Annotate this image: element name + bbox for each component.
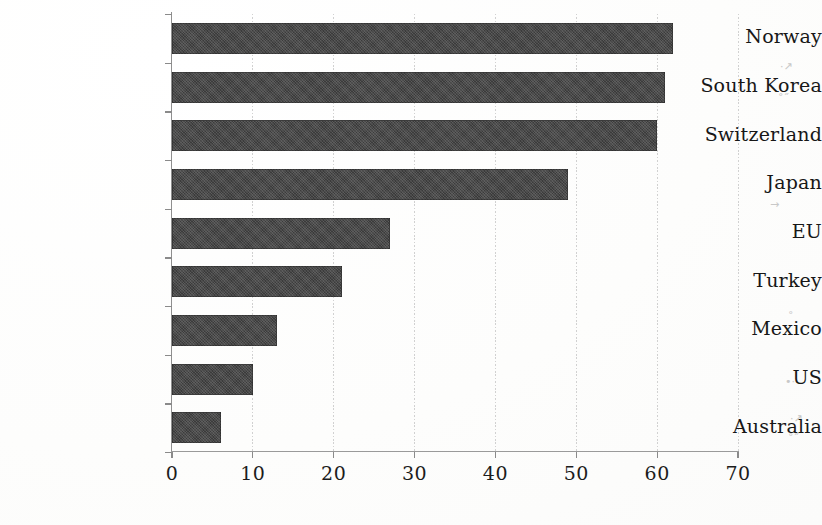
bar-mexico (172, 315, 277, 346)
category-label-turkey: Turkey (662, 269, 822, 291)
bar-australia (172, 412, 221, 443)
scan-speck-4: •· (785, 375, 795, 388)
category-label-us: US (662, 366, 822, 388)
bar-japan (172, 169, 568, 200)
x-tick-0 (171, 452, 172, 458)
bar-south-korea (172, 72, 665, 103)
category-label-japan: Japan (662, 171, 822, 193)
x-axis-label-50: 50 (546, 462, 606, 484)
y-tick-7 (165, 355, 172, 356)
bar-norway (172, 23, 673, 54)
y-tick-8 (165, 403, 172, 404)
category-label-mexico: Mexico (662, 317, 822, 339)
category-label-norway: Norway (662, 25, 822, 47)
x-tick-50 (576, 452, 577, 458)
scan-speck-0: ·↗ (780, 60, 793, 73)
y-tick-3 (165, 160, 172, 161)
category-label-south-korea: South Korea (662, 74, 822, 96)
y-tick-2 (165, 111, 172, 112)
y-tick-1 (165, 63, 172, 64)
bar-turkey (172, 266, 342, 297)
x-tick-60 (657, 452, 658, 458)
x-axis-label-0: 0 (142, 462, 202, 484)
y-tick-5 (165, 257, 172, 258)
x-axis-label-60: 60 (627, 462, 687, 484)
scan-speck-1: ˚˝ (778, 92, 789, 105)
x-axis-label-40: 40 (465, 462, 525, 484)
scan-speck-5: ·↗ (790, 412, 803, 425)
scan-speck-3: ˚ (788, 310, 794, 323)
x-tick-30 (414, 452, 415, 458)
x-axis-line (171, 451, 739, 452)
y-tick-0 (165, 14, 172, 15)
x-axis-label-20: 20 (304, 462, 364, 484)
x-axis-label-30: 30 (385, 462, 445, 484)
scan-speck-6: ˚˝ (788, 432, 799, 445)
x-axis-label-70: 70 (708, 462, 768, 484)
scan-speck-2: → (770, 198, 779, 211)
y-tick-4 (165, 209, 172, 210)
y-tick-6 (165, 306, 172, 307)
bar-switzerland (172, 120, 657, 151)
x-tick-40 (495, 452, 496, 458)
x-tick-10 (252, 452, 253, 458)
bar-eu (172, 218, 390, 249)
horizontal-bar-chart: 010203040506070 NorwaySouth KoreaSwitzer… (0, 0, 822, 525)
category-label-eu: EU (662, 220, 822, 242)
x-tick-70 (737, 452, 738, 458)
category-label-switzerland: Switzerland (662, 123, 822, 145)
x-tick-20 (333, 452, 334, 458)
bar-us (172, 364, 253, 395)
x-axis-label-10: 10 (223, 462, 283, 484)
